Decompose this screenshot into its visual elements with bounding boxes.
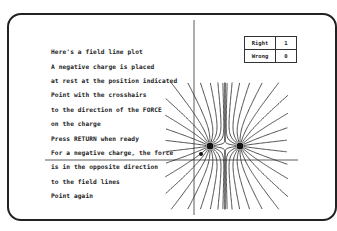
- field-line: [240, 150, 262, 209]
- field-line: [210, 149, 217, 209]
- field-line: [233, 149, 240, 209]
- field-line: [165, 115, 207, 143]
- source-charge-right: [237, 143, 244, 150]
- field-lines: [165, 83, 288, 210]
- field-line: [244, 128, 288, 145]
- field-line: [188, 150, 210, 209]
- field-line: [213, 83, 221, 144]
- field-line: [229, 149, 237, 210]
- field-line: [243, 149, 288, 179]
- field-line: [188, 83, 210, 142]
- field-line: [233, 83, 240, 143]
- test-charge-marker: [199, 152, 203, 156]
- field-line: [240, 83, 262, 142]
- field-line: [213, 149, 221, 210]
- field-line: [229, 83, 237, 144]
- source-charge-left: [207, 143, 214, 150]
- field-line: [166, 129, 206, 144]
- field-line: [243, 113, 288, 143]
- field-line: [210, 83, 217, 143]
- field-line: [244, 148, 288, 165]
